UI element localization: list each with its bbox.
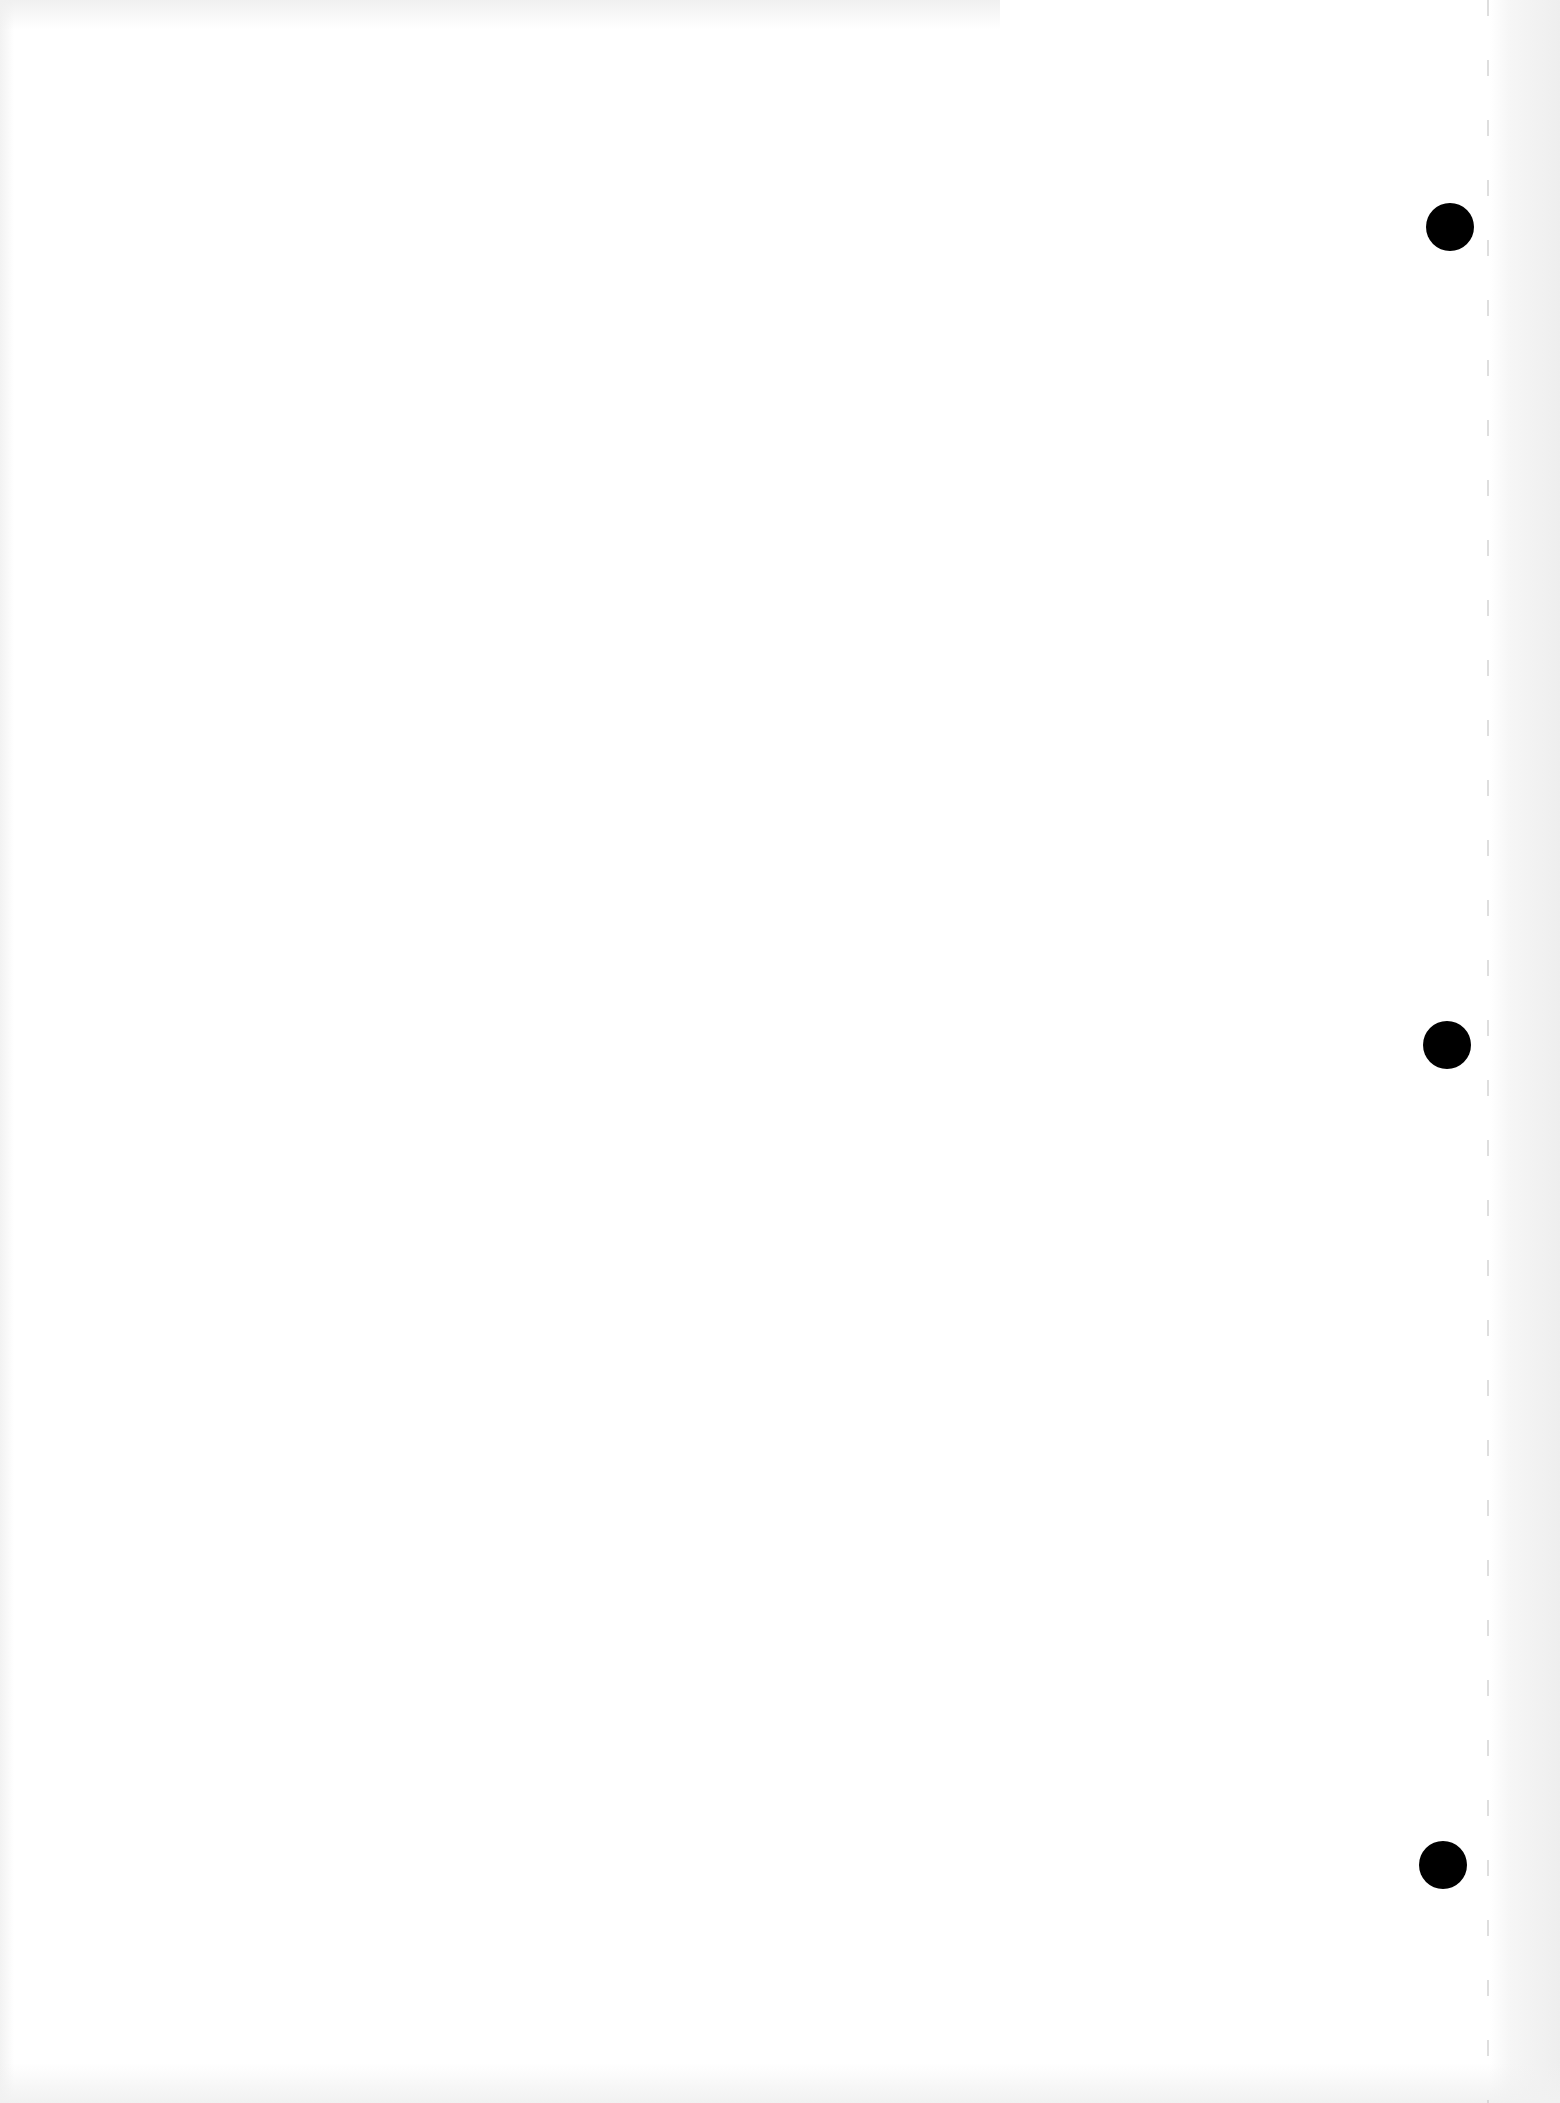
scanned-blank-page	[0, 0, 1560, 2103]
punch-hole-middle	[1423, 1021, 1471, 1069]
punch-hole-bottom	[1419, 1841, 1467, 1889]
scan-top-shadow	[0, 0, 1000, 30]
scan-bottom-shadow	[0, 2063, 1560, 2103]
perforation-line	[1487, 0, 1489, 2103]
punch-hole-top	[1426, 203, 1474, 251]
